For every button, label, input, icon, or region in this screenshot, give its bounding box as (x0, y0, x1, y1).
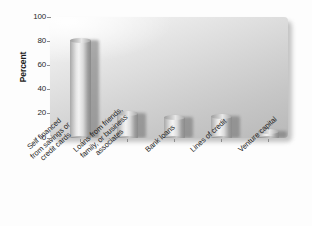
y-tick-label-20: 20 (24, 109, 46, 117)
y-axis-tick-labels: 100 80 60 40 20 0 (22, 0, 46, 226)
x-tickmark-3 (174, 139, 175, 142)
plot-area (50, 17, 288, 138)
bar-self-financed (70, 40, 91, 138)
y-tick-label-60: 60 (24, 61, 46, 69)
y-tick-label-100: 100 (24, 13, 46, 21)
y-tick-label-80: 80 (24, 37, 46, 45)
y-tick-label-40: 40 (24, 85, 46, 93)
bar-cap-ellipse (70, 38, 91, 43)
bar-chart: Percent 100 80 60 40 20 0 (0, 0, 312, 226)
bar-cap-ellipse (164, 115, 185, 120)
x-tickmark-5 (268, 139, 269, 142)
x-tickmark-2 (127, 139, 128, 142)
bar-body (70, 40, 91, 138)
x-tickmark-4 (221, 139, 222, 142)
